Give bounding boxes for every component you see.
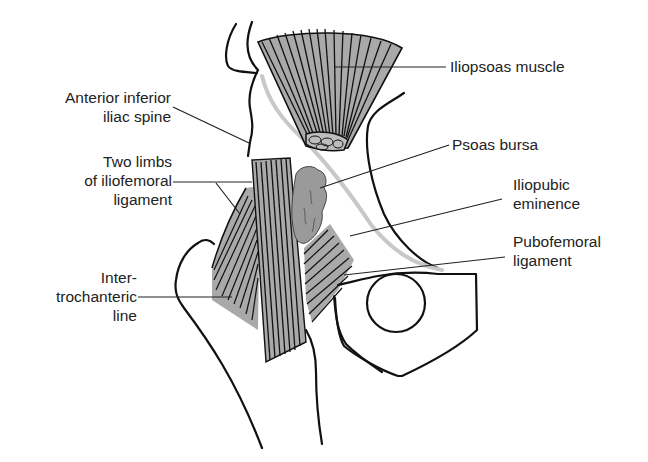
label-iliofemoral-ligament: Two limbs of iliofemoral ligament	[84, 152, 172, 209]
label-psoas-bursa: Psoas bursa	[452, 135, 538, 154]
label-line: line	[56, 306, 137, 325]
iliopsoas-muscle	[258, 29, 402, 151]
label-anterior-inferior-iliac-spine: Anterior inferior iliac spine	[65, 88, 171, 126]
label-line: Anterior inferior	[65, 88, 171, 107]
label-line: Two limbs	[84, 152, 172, 171]
label-line: of iliofemoral	[84, 171, 172, 190]
label-line: eminence	[513, 194, 580, 213]
iliofemoral-lateral-limb	[212, 186, 260, 330]
label-line: Pubofemoral	[513, 232, 601, 251]
label-line: ligament	[513, 251, 601, 270]
label-intertrochanteric-line: Inter- trochanteric line	[56, 268, 137, 325]
label-line: Psoas bursa	[452, 135, 538, 154]
label-line: Iliopsoas muscle	[450, 57, 565, 76]
pubis-outline	[335, 273, 477, 376]
psoas-bursa	[292, 167, 327, 244]
label-iliopubic-eminence: Iliopubic eminence	[513, 175, 580, 213]
label-pubofemoral-ligament: Pubofemoral ligament	[513, 232, 601, 270]
label-line: Inter-	[56, 268, 137, 287]
label-line: Iliopubic	[513, 175, 580, 194]
label-line: ligament	[84, 190, 172, 209]
hip-anatomy-diagram: Iliopsoas muscle Anterior inferior iliac…	[0, 0, 648, 462]
label-iliopsoas-muscle: Iliopsoas muscle	[450, 57, 565, 76]
label-line: iliac spine	[65, 107, 171, 126]
obturator-foramen	[367, 274, 425, 332]
label-line: trochanteric	[56, 287, 137, 306]
